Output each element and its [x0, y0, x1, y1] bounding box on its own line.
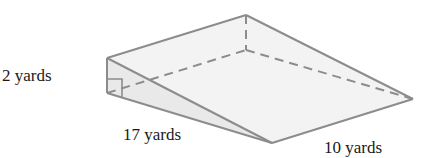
length-label: 17 yards: [123, 125, 181, 144]
height-label: 2 yards: [2, 66, 52, 85]
prism-diagram: 2 yards 17 yards 10 yards: [0, 0, 443, 158]
width-label: 10 yards: [324, 138, 382, 157]
